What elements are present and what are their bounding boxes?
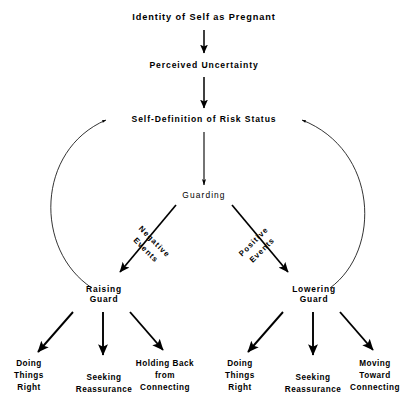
- node-guarding: Guarding: [182, 190, 225, 200]
- arrow-lowering-guard-to-doing-things-right: [248, 312, 283, 352]
- flow-diagram: Identity of Self as Pregnant Perceived U…: [0, 0, 408, 411]
- node-doing-things-right-left: Doing Things Right: [14, 358, 44, 394]
- node-identity-of-self-as-pregnant: Identity of Self as Pregnant: [132, 12, 276, 23]
- node-lowering-guard: Lowering Guard: [292, 284, 336, 305]
- arrow-raising-guard-to-holding-back: [130, 312, 163, 350]
- node-raising-guard: Raising Guard: [86, 284, 122, 305]
- node-moving-toward-connecting: Moving Toward Connecting: [350, 358, 400, 394]
- node-holding-back-from-connecting: Holding Back from Connecting: [136, 358, 194, 394]
- arrow-raising-guard-to-doing-things-right: [38, 312, 73, 352]
- feedback-arc-raising-guard-to-self-definition: [51, 120, 106, 288]
- node-seeking-reassurance-right: Seeking Reassurance: [285, 372, 341, 396]
- node-perceived-uncertainty: Perceived Uncertainty: [149, 60, 258, 70]
- node-self-definition-of-risk-status: Self-Definition of Risk Status: [132, 114, 277, 124]
- feedback-arc-lowering-guard-to-self-definition: [302, 120, 365, 288]
- node-doing-things-right-right: Doing Things Right: [225, 358, 255, 394]
- arrow-lowering-guard-to-moving-toward-connecting: [340, 312, 373, 350]
- node-seeking-reassurance-left: Seeking Reassurance: [76, 372, 132, 396]
